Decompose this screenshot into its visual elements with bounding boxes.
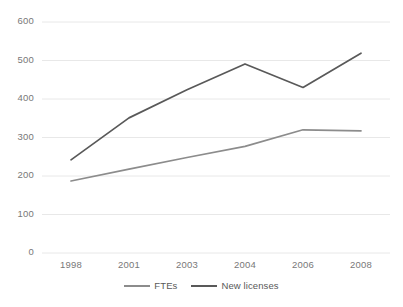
y-tick-label: 600 bbox=[0, 15, 34, 26]
legend-line-swatch-icon bbox=[124, 285, 150, 287]
x-tick-label: 1998 bbox=[51, 259, 91, 270]
x-tick-label: 2003 bbox=[167, 259, 207, 270]
legend-item-label: New licenses bbox=[221, 280, 278, 291]
legend-item[interactable]: FTEs bbox=[124, 280, 177, 291]
legend-line-swatch-icon bbox=[191, 285, 217, 287]
chart-legend: FTEsNew licenses bbox=[0, 280, 403, 291]
legend-item[interactable]: New licenses bbox=[191, 280, 278, 291]
y-tick-label: 300 bbox=[0, 131, 34, 142]
x-tick-label: 2006 bbox=[283, 259, 323, 270]
series-lines bbox=[71, 53, 361, 181]
series-line-new-licenses bbox=[71, 53, 361, 160]
y-tick-label: 500 bbox=[0, 54, 34, 65]
x-tick-label: 2008 bbox=[341, 259, 381, 270]
y-tick-label: 400 bbox=[0, 92, 34, 103]
line-chart: 0100200300400500600 19982001200320042006… bbox=[0, 0, 403, 307]
x-tick-label: 2004 bbox=[225, 259, 265, 270]
legend-item-label: FTEs bbox=[154, 280, 177, 291]
y-tick-label: 0 bbox=[0, 246, 34, 257]
y-tick-label: 200 bbox=[0, 169, 34, 180]
x-tick-label: 2001 bbox=[109, 259, 149, 270]
y-tick-label: 100 bbox=[0, 208, 34, 219]
gridlines bbox=[42, 22, 390, 253]
